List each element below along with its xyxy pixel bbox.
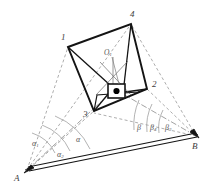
label-corner-3: 3 [83, 110, 88, 119]
label-corner-4: 4 [130, 10, 135, 19]
angle-beta-3-sub: 3 [169, 127, 171, 132]
angle-label-alpha: α [76, 136, 80, 144]
label-center-sub: 1 [109, 52, 111, 57]
label-station-a: A [14, 174, 20, 183]
label-center-point: O1 [104, 49, 112, 57]
diagram-canvas [0, 0, 217, 189]
baseline-lower-rule [29, 137, 197, 171]
angle-arc-b-1 [159, 110, 163, 133]
angle-label-alpha-2: α2 [57, 151, 64, 159]
baseline-ab [28, 133, 197, 171]
center-instrument-marker [108, 84, 125, 98]
label-corner-1: 1 [61, 33, 66, 42]
angle-beta-4-sub: 4 [154, 127, 156, 132]
label-corner-2: 2 [152, 80, 157, 89]
edge-4-to-center [124, 24, 131, 85]
center-dot-icon [113, 88, 119, 94]
sightline-b-to-4 [131, 24, 196, 136]
angle-label-beta-4: β4 [150, 124, 156, 132]
angle-label-beta-3: β3 [165, 124, 171, 132]
angle-arc-a-3 [55, 116, 90, 149]
angle-alpha-2-sub: 2 [61, 154, 63, 159]
angle-arcs-at-a [32, 116, 90, 153]
angle-label-alpha-1: α1 [32, 140, 39, 148]
angle-alpha-1-sub: 1 [36, 143, 38, 148]
surveying-diagram: 1 2 3 4 A B O1 α1 α2 α β β4 β3 [0, 0, 217, 189]
sightline-b-to-3 [94, 113, 196, 136]
label-station-b: B [192, 142, 198, 151]
angle-label-beta: β [137, 124, 141, 132]
station-a-marker [24, 165, 34, 173]
